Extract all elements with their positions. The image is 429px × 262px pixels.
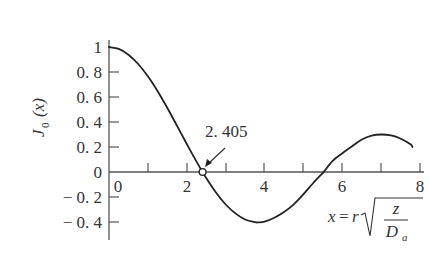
x-tick-label: 8 (416, 177, 425, 196)
zero-annotation: 2. 405 (199, 122, 247, 175)
x-tick-label: 4 (260, 177, 269, 196)
y-tick-label: 0. 2 (77, 138, 103, 157)
y-tick-label: − 0. 4 (63, 213, 103, 232)
x-axis-label-den-sub: a (402, 231, 408, 243)
y-tick-label: 1 (94, 38, 103, 57)
x-axis-label-den: D (385, 222, 399, 241)
bessel-j0-curve (109, 47, 412, 223)
annotation-arrow-line (208, 148, 225, 164)
x-ticks (148, 163, 420, 172)
zero-marker (199, 169, 206, 176)
x-axis-label: x = r z D a (327, 198, 423, 243)
x-axis-label-r: r (352, 207, 359, 226)
x-tick-label: 2 (183, 177, 192, 196)
y-tick-label: − 0. 2 (63, 188, 102, 207)
annotation-label: 2. 405 (205, 122, 248, 141)
y-axis-label: J 0 (x) (29, 98, 51, 137)
y-tick-label: 0. 4 (77, 113, 103, 132)
x-tick-labels: 0 2 4 6 8 (114, 177, 425, 196)
y-tick-labels: 1 0. 8 0. 6 0. 4 0. 2 0 − 0. 2 − 0. 4 (63, 38, 103, 232)
y-axis-label-main: J (29, 128, 48, 137)
x-axis-label-eq: = (339, 207, 349, 226)
y-ticks (109, 72, 119, 222)
y-axis-label-arg: (x) (29, 98, 48, 117)
y-tick-label: 0. 8 (77, 63, 103, 82)
x-axis-label-num: z (392, 199, 400, 218)
y-axis-label-sub: 0 (39, 122, 51, 128)
bessel-chart: 1 0. 8 0. 6 0. 4 0. 2 0 − 0. 2 − 0. 4 0 … (0, 0, 429, 262)
x-tick-label: 0 (114, 177, 123, 196)
x-axis-label-lhs: x (327, 207, 336, 226)
y-tick-label: 0 (94, 163, 103, 182)
arrow-head-icon (205, 159, 212, 167)
x-tick-label: 6 (338, 177, 347, 196)
y-tick-label: 0. 6 (77, 88, 103, 107)
